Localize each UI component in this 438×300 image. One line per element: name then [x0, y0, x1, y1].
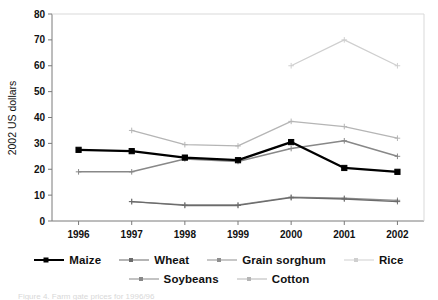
legend-label: Cotton — [272, 273, 310, 285]
line-chart-svg: 010203040506070802002 US dollars19961997… — [0, 0, 438, 248]
legend-label: Rice — [379, 254, 404, 266]
data-point-marker — [76, 147, 81, 152]
series-wheat — [129, 195, 400, 208]
legend-swatch-soybeans — [129, 273, 159, 284]
x-axis-tick-label: 2000 — [280, 229, 303, 240]
y-axis-tick-label: 80 — [34, 9, 46, 20]
x-axis-tick-label: 1997 — [121, 229, 144, 240]
legend-label: Wheat — [154, 254, 189, 266]
figure-caption: Figure 4. Farm gate prices for 1996/96 — [18, 292, 438, 300]
legend-line-icon — [207, 259, 237, 260]
y-axis-tick-label: 50 — [34, 86, 46, 97]
legend-marker-icon — [44, 257, 49, 262]
y-axis-tick-label: 20 — [34, 164, 46, 175]
legend-swatch-cotton — [237, 273, 267, 284]
y-axis-tick-label: 0 — [39, 216, 45, 227]
legend-swatch-maize — [34, 254, 64, 265]
legend-item-grain-sorghum[interactable]: Grain sorghum — [207, 254, 326, 266]
legend-line-icon — [119, 259, 149, 260]
y-axis-tick-label: 40 — [34, 112, 46, 123]
legend-swatch-rice — [344, 254, 374, 265]
data-point-marker — [342, 165, 347, 170]
legend-label: Soybeans — [164, 273, 219, 285]
legend-item-rice[interactable]: Rice — [344, 254, 404, 266]
x-axis-tick-label: 2001 — [333, 229, 356, 240]
chart-legend: MaizeWheatGrain sorghumRice SoybeansCott… — [0, 250, 438, 288]
legend-line-icon — [34, 259, 64, 261]
legend-swatch-wheat — [119, 254, 149, 265]
legend-marker-icon — [139, 277, 143, 281]
data-point-marker — [289, 139, 294, 144]
legend-item-cotton[interactable]: Cotton — [237, 273, 310, 285]
legend-label: Grain sorghum — [242, 254, 326, 266]
series-rice — [288, 37, 400, 68]
legend-line-icon — [344, 259, 374, 260]
y-axis-title: 2002 US dollars — [6, 81, 18, 156]
chart-screenshot: 010203040506070802002 US dollars19961997… — [0, 0, 438, 300]
legend-swatch-grain-sorghum — [207, 254, 237, 265]
data-point-marker — [235, 158, 240, 163]
legend-marker-icon — [247, 277, 251, 281]
data-point-marker — [129, 149, 134, 154]
x-axis-tick-label: 2002 — [386, 229, 409, 240]
y-axis-tick-label: 10 — [34, 190, 46, 201]
legend-item-maize[interactable]: Maize — [34, 254, 101, 266]
legend-label: Maize — [69, 254, 101, 266]
legend-marker-icon — [354, 258, 358, 262]
legend-line-icon — [237, 278, 267, 279]
y-axis-tick-label: 30 — [34, 138, 46, 149]
series-cotton — [129, 119, 400, 149]
chart-plot-area: 010203040506070802002 US dollars19961997… — [0, 0, 438, 248]
legend-marker-icon — [217, 258, 221, 262]
legend-item-wheat[interactable]: Wheat — [119, 254, 189, 266]
data-point-marker — [182, 155, 187, 160]
legend-row-secondary: SoybeansCotton — [0, 269, 438, 288]
y-axis-tick-label: 70 — [34, 34, 46, 45]
legend-row-primary: MaizeWheatGrain sorghumRice — [0, 250, 438, 269]
legend-item-soybeans[interactable]: Soybeans — [129, 273, 219, 285]
x-axis-tick-label: 1999 — [227, 229, 250, 240]
x-axis-tick-label: 1998 — [174, 229, 197, 240]
legend-line-icon — [129, 278, 159, 279]
y-axis-tick-label: 60 — [34, 60, 46, 71]
x-axis-tick-label: 1996 — [67, 229, 90, 240]
legend-marker-icon — [129, 258, 133, 262]
data-point-marker — [395, 169, 400, 174]
